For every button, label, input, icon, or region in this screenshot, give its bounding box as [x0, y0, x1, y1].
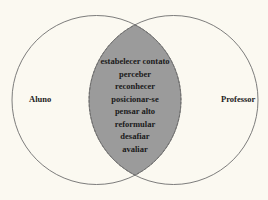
- intersection-item: avaliar: [122, 144, 148, 154]
- intersection-item: pensar alto: [115, 106, 155, 116]
- left-set-label: Aluno: [29, 94, 51, 104]
- venn-diagram: Aluno Professor estabelecer contato perc…: [0, 0, 268, 200]
- intersection-item: perceber: [119, 69, 151, 79]
- intersection-item: reformular: [115, 119, 156, 129]
- intersection-item: estabelecer contato: [101, 56, 170, 66]
- intersection-item: posicionar-se: [111, 94, 159, 104]
- intersection-item: reconhecer: [115, 81, 155, 91]
- right-set-label: Professor: [221, 94, 256, 104]
- intersection-item: desafiar: [120, 131, 150, 141]
